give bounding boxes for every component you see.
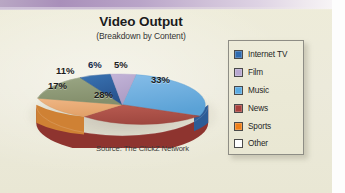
- legend-label-other: Other: [248, 139, 268, 148]
- chart-page: Video Output (Breakdown by Content): [0, 0, 345, 193]
- pie-label-internet-tv: 6%: [88, 59, 102, 70]
- legend-label-film: Film: [248, 68, 263, 77]
- pie-label-news: 28%: [94, 89, 113, 100]
- chart-legend: Internet TV Film Music News Sports Other: [228, 40, 304, 155]
- legend-swatch-news: [234, 104, 243, 113]
- legend-label-news: News: [248, 104, 268, 113]
- legend-item-internet-tv[interactable]: Internet TV: [234, 46, 303, 64]
- pie-label-other: 11%: [56, 65, 75, 76]
- legend-swatch-film: [234, 68, 243, 77]
- legend-label-internet-tv: Internet TV: [248, 50, 287, 59]
- pie-label-sports: 17%: [48, 80, 67, 91]
- top-accent-band-sheen: [0, 7, 332, 10]
- chart-source: Source: The ClickZ Network: [55, 144, 230, 153]
- pie-label-film: 5%: [114, 59, 128, 70]
- legend-item-music[interactable]: Music: [234, 82, 303, 100]
- legend-swatch-internet-tv: [234, 50, 243, 59]
- legend-label-sports: Sports: [248, 122, 271, 131]
- legend-item-news[interactable]: News: [234, 99, 303, 117]
- pie-chart: 33% 28% 17% 11% 6% 5%: [18, 48, 228, 148]
- legend-swatch-other: [234, 139, 243, 148]
- legend-label-music: Music: [248, 86, 269, 95]
- legend-item-other[interactable]: Other: [234, 135, 303, 153]
- legend-item-sports[interactable]: Sports: [234, 117, 303, 135]
- legend-item-film[interactable]: Film: [234, 64, 303, 82]
- pie-label-music: 33%: [151, 74, 170, 85]
- legend-swatch-sports: [234, 122, 243, 131]
- chart-title: Video Output: [62, 14, 220, 29]
- chart-subtitle: (Breakdown by Content): [62, 31, 220, 41]
- right-margin: [332, 0, 345, 193]
- legend-swatch-music: [234, 86, 243, 95]
